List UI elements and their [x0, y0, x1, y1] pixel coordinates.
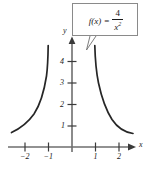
curve-left-branch [12, 46, 49, 133]
formula-function-label: f(x) [89, 16, 102, 26]
x-tick-label-neg1: −1 [44, 153, 53, 161]
formula-denominator: x2 [114, 20, 121, 32]
x-axis-arrowhead [128, 143, 136, 150]
formula-denominator-exponent: 2 [118, 21, 121, 27]
x-tick-label-pos2: 2 [117, 153, 121, 161]
formula-expression: f(x) = 4 x2 [73, 4, 139, 37]
x-axis-label: x [139, 141, 143, 149]
x-tick-label-pos1: 1 [94, 153, 98, 161]
y-axis-label: y [63, 27, 67, 35]
formula-callout-box: f(x) = 4 x2 [72, 3, 138, 36]
formula-fraction: 4 x2 [112, 9, 123, 32]
formula-numerator: 4 [116, 9, 121, 19]
formula-equals-sign: = [103, 16, 110, 26]
y-tick-label-3: 3 [60, 79, 64, 87]
y-tick-label-1: 1 [61, 122, 65, 130]
x-tick-label-neg2: −2 [20, 153, 29, 161]
y-tick-label-2: 2 [60, 101, 64, 109]
curve-right-branch [95, 46, 133, 134]
y-axis-arrowhead [69, 37, 76, 45]
function-graph-figure: x y −2 −1 1 2 1 2 3 4 f(x) = 4 x2 [0, 0, 147, 169]
y-tick-label-4: 4 [60, 58, 64, 66]
